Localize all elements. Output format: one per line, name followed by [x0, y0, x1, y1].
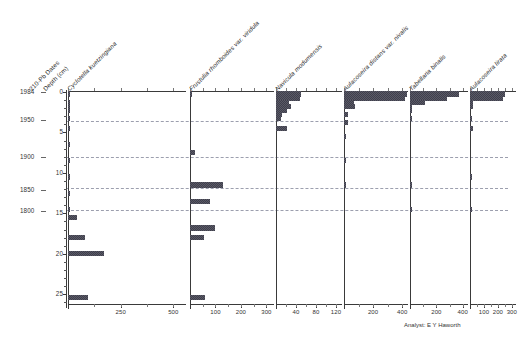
- x-minor-tick: [306, 304, 307, 307]
- data-bar: [68, 215, 77, 220]
- x-minor-tick: [402, 304, 403, 307]
- x-tick-label: 250: [114, 309, 128, 315]
- depth-minor-tick: [64, 116, 67, 117]
- depth-minor-tick: [64, 149, 67, 150]
- species-header-1: Cyclotella kuetzingiana: [66, 40, 118, 92]
- x-minor-tick: [463, 304, 464, 307]
- panel-top-minor-tick: [463, 88, 464, 91]
- year-tick: [41, 92, 46, 93]
- x-minor-tick: [505, 304, 506, 307]
- data-bar: [68, 116, 70, 121]
- depth-tick-15: [63, 213, 67, 214]
- depth-tick-20: [63, 254, 67, 255]
- x-minor-tick: [450, 304, 451, 307]
- x-minor-tick: [121, 304, 122, 307]
- x-minor-tick: [254, 304, 255, 307]
- panel-bottom-axis-5: [410, 304, 468, 305]
- panel-left-spine-1: [68, 89, 69, 309]
- data-bar: [190, 225, 215, 230]
- x-minor-tick: [436, 304, 437, 307]
- x-minor-tick: [512, 304, 513, 307]
- depth-minor-tick: [64, 278, 67, 279]
- year-label-1950: 1950: [20, 116, 34, 123]
- depth-minor-tick: [64, 221, 67, 222]
- depth-axis-spine: [66, 90, 67, 308]
- year-tick: [41, 120, 46, 121]
- analyst-note: Analyst: E Y Haworth: [404, 322, 460, 328]
- panel-left-spine-3: [276, 89, 277, 309]
- depth-tick-label: 25: [53, 290, 63, 297]
- x-minor-tick: [423, 304, 424, 307]
- x-minor-tick: [316, 304, 317, 307]
- x-tick-label: 80: [309, 309, 323, 315]
- x-tick-label: 40: [289, 309, 303, 315]
- x-minor-tick: [359, 304, 360, 307]
- panel-top-minor-tick: [306, 88, 307, 91]
- data-bar: [68, 91, 70, 96]
- x-minor-tick: [215, 304, 216, 307]
- depth-tick-label: 0: [53, 88, 63, 95]
- panel-top-minor-tick: [173, 88, 174, 91]
- x-tick-label: 200: [491, 309, 505, 315]
- species-header-3: Navicula modumensis: [274, 42, 324, 92]
- species-header-5: Tabellaria binalis: [408, 53, 447, 92]
- panel-bottom-axis-1: [68, 304, 186, 305]
- zone-boundary-line-3: [66, 188, 508, 189]
- x-minor-tick: [147, 304, 148, 307]
- data-bar: [276, 126, 287, 131]
- data-bar: [344, 104, 355, 109]
- x-tick: [470, 304, 471, 308]
- data-bar: [410, 116, 412, 121]
- depth-minor-tick: [64, 270, 67, 271]
- data-bar: [68, 251, 104, 256]
- depth-tick-0: [63, 92, 67, 93]
- depth-minor-tick: [64, 108, 67, 109]
- year-label-1900: 1900: [20, 153, 34, 160]
- depth-tick-label: 10: [53, 169, 63, 176]
- x-minor-tick: [373, 304, 374, 307]
- data-bar: [68, 126, 70, 131]
- panel-top-axis-2: [190, 91, 274, 92]
- data-bar: [68, 207, 70, 212]
- depth-minor-tick: [64, 302, 67, 303]
- panel-top-minor-tick: [316, 88, 317, 91]
- x-minor-tick: [477, 304, 478, 307]
- diatom-stratigraphic-diagram: 051015202519841950190018501800210-Pb Dat…: [0, 0, 519, 345]
- depth-tick-label: 15: [53, 209, 63, 216]
- data-bar: [68, 235, 85, 240]
- data-bar: [68, 142, 70, 147]
- x-tick-label: 200: [234, 309, 248, 315]
- zone-boundary-line-2: [66, 157, 508, 158]
- depth-minor-tick: [64, 165, 67, 166]
- year-label-1850: 1850: [20, 186, 34, 193]
- panel-top-minor-tick: [94, 88, 95, 91]
- x-minor-tick: [326, 304, 327, 307]
- year-tick: [41, 157, 46, 158]
- data-bar: [68, 191, 70, 196]
- data-bar: [470, 126, 473, 131]
- x-minor-tick: [266, 304, 267, 307]
- x-minor-tick: [296, 304, 297, 307]
- panel-top-minor-tick: [215, 88, 216, 91]
- x-tick-label: 500: [166, 309, 180, 315]
- x-tick: [190, 304, 191, 308]
- depth-tick-label: 20: [53, 250, 63, 257]
- data-bar: [190, 150, 195, 155]
- x-tick-label: 100: [477, 309, 491, 315]
- depth-minor-tick: [64, 246, 67, 247]
- depth-minor-tick: [64, 124, 67, 125]
- x-tick-label: 300: [259, 309, 273, 315]
- depth-minor-tick: [64, 197, 67, 198]
- zone-boundary-line-4: [66, 210, 508, 211]
- x-tick: [344, 304, 345, 308]
- x-tick-label: 200: [366, 309, 380, 315]
- panel-top-minor-tick: [512, 88, 513, 91]
- species-header-6: Aulacoseira lirata: [468, 52, 508, 92]
- data-bar: [68, 295, 88, 300]
- panel-top-minor-tick: [203, 88, 204, 91]
- panel-left-spine-5: [410, 89, 411, 309]
- panel-left-spine-6: [470, 89, 471, 309]
- x-minor-tick: [498, 304, 499, 307]
- panel-bottom-axis-4: [344, 304, 408, 305]
- panel-top-minor-tick: [326, 88, 327, 91]
